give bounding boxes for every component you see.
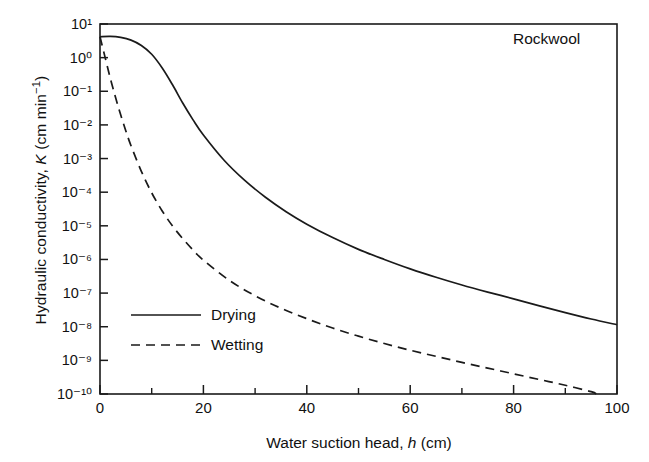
y-tick-label: 10⁰ (70, 50, 92, 66)
x-axis-title: Water suction head, h (cm) (100, 434, 618, 452)
y-tick-label: 10⁻⁴ (62, 184, 92, 200)
x-tick-label: 20 (195, 399, 212, 416)
x-tick-label: 40 (298, 399, 315, 416)
chart-plot-area (0, 0, 649, 462)
series-line-drying (100, 36, 617, 324)
series-line-wetting (100, 37, 596, 394)
y-tick-label: 10⁻⁶ (62, 251, 92, 267)
y-axis-title-units-exponent: −1 (30, 81, 42, 94)
x-tick-label: 0 (96, 399, 104, 416)
plot-frame-rect (100, 24, 617, 394)
y-tick-label: 10⁻⁸ (62, 319, 92, 335)
y-tick-label: 10⁻⁹ (62, 352, 92, 368)
x-tick-label: 100 (604, 399, 629, 416)
chart-figure: 10¹10⁰10⁻¹10⁻²10⁻³10⁻⁴10⁻⁵10⁻⁶10⁻⁷10⁻⁸10… (0, 0, 649, 462)
y-tick-label: 10¹ (71, 16, 92, 32)
y-tick-label: 10⁻⁷ (63, 285, 92, 301)
y-tick-label: 10⁻² (63, 117, 92, 133)
axis-ticks (100, 24, 617, 394)
legend-label-drying: Drying (211, 306, 256, 324)
y-tick-label: 10⁻¹⁰ (57, 386, 92, 402)
axes-frame (100, 24, 617, 394)
y-axis-title-symbol: K (32, 154, 49, 164)
x-axis-title-units: (cm) (416, 434, 451, 451)
y-tick-label: 10⁻³ (63, 151, 92, 167)
y-axis-title: Hydraulic conductivity, K (cm min−1) (30, 10, 50, 390)
x-tick-label: 80 (505, 399, 522, 416)
legend-label-wetting: Wetting (211, 336, 263, 354)
y-axis-title-text: Hydraulic conductivity, (32, 165, 49, 325)
y-axis-title-units-close: ) (32, 76, 49, 81)
x-axis-title-text: Water suction head, (266, 434, 408, 451)
y-tick-label: 10⁻⁵ (62, 218, 92, 234)
chart-annotation-rockwool: Rockwool (513, 30, 580, 48)
legend-line-samples (131, 315, 201, 345)
y-axis-title-units-open: (cm min (32, 94, 49, 154)
x-tick-label: 60 (402, 399, 419, 416)
y-tick-label: 10⁻¹ (63, 83, 92, 99)
data-series-group (100, 36, 617, 394)
